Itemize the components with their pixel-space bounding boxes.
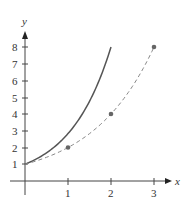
data-point-marker (152, 45, 157, 50)
y-axis-label: y (21, 15, 27, 27)
y-axis-arrow-icon (22, 31, 28, 39)
y-tick-label: 1 (12, 158, 18, 170)
x-tick-label: 2 (108, 187, 114, 199)
y-tick-label: 4 (12, 108, 18, 120)
y-tick-label: 2 (12, 142, 18, 154)
dashed-curve (25, 47, 154, 164)
y-tick-label: 5 (12, 92, 18, 104)
y-tick-label: 6 (12, 75, 18, 87)
y-tick-label: 7 (12, 58, 18, 70)
series-layer (25, 45, 156, 165)
x-tick-label: 3 (151, 187, 157, 199)
x-tick-label: 1 (65, 187, 71, 199)
function-graph: x y 1 2 3 1 2 3 4 5 6 7 8 (0, 0, 187, 209)
y-tick-label: 8 (12, 41, 18, 53)
x-axis-label: x (174, 175, 180, 187)
data-point-marker (109, 112, 114, 117)
data-point-marker (66, 145, 71, 150)
x-axis-arrow-icon (165, 178, 172, 184)
y-tick-label: 3 (12, 125, 18, 137)
